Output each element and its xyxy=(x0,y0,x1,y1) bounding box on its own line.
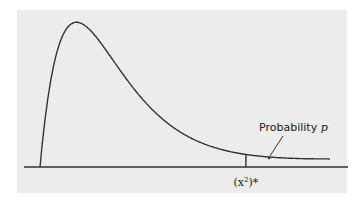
probability-annotation: Probability p xyxy=(259,121,328,134)
chart-svg: (x2)* Probability p xyxy=(0,0,360,200)
critical-value-label: (x2)* xyxy=(234,176,259,189)
density-curve xyxy=(40,22,330,167)
annotation-arrow xyxy=(270,136,283,156)
annotation-arrow-tip xyxy=(268,157,271,160)
